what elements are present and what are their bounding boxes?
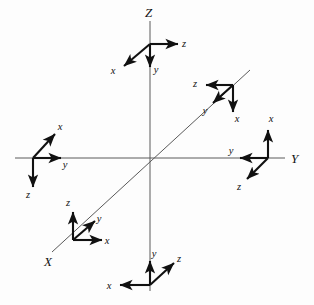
upper-right-frame-on-x-axis-z-label: z (192, 78, 197, 89)
top-frame-on-z-axis-y-label: y (153, 64, 159, 75)
bottom-frame-on-z-axis: xyz (106, 248, 181, 291)
lower-left-frame-on-x-axis: zxy (65, 197, 110, 246)
left-frame-on-y-axis-z-label: z (25, 189, 30, 200)
lower-left-frame-on-x-axis-y-arrow (73, 221, 95, 240)
top-frame-on-z-axis: zxy (110, 38, 186, 76)
right-frame-on-y-axis-x-label: x (268, 113, 274, 124)
bottom-frame-on-z-axis-x-label: x (106, 280, 112, 291)
bottom-frame-on-z-axis-z-arrow (150, 263, 174, 285)
upper-right-frame-on-x-axis-y-arrow (213, 85, 233, 103)
left-frame-on-y-axis-x-arrow (33, 134, 55, 158)
left-frame-on-y-axis-y-label: y (62, 159, 68, 170)
bottom-frame-on-z-axis-z-label: z (176, 253, 181, 264)
lower-left-frame-on-x-axis-z-label: z (65, 197, 70, 208)
right-frame-on-y-axis-z-label: z (236, 181, 241, 192)
top-frame-on-z-axis-z-label: z (181, 38, 186, 49)
global-axis-label-z: Z (145, 5, 153, 20)
left-frame-on-y-axis: xyz (25, 121, 68, 200)
right-frame-on-y-axis-z-arrow (247, 158, 268, 179)
figure-canvas: zxyzxyxyzxyzzxyxyz XYZ (0, 0, 314, 305)
lower-left-frame-on-x-axis-y-label: y (96, 213, 102, 224)
upper-right-frame-on-x-axis-y-label: y (202, 105, 208, 116)
right-frame-on-y-axis: xyz (228, 113, 274, 192)
right-frame-on-y-axis-y-label: y (228, 145, 234, 156)
left-frame-on-y-axis-x-label: x (57, 121, 63, 132)
lower-left-frame-on-x-axis-x-label: x (104, 235, 110, 246)
top-frame-on-z-axis-x-arrow (124, 44, 150, 66)
global-axis-label-y: Y (291, 151, 300, 166)
bottom-frame-on-z-axis-y-label: y (151, 248, 157, 259)
coordinate-frames-diagram: zxyzxyxyzxyzzxyxyz XYZ (0, 0, 314, 305)
global-axis-label-x: X (43, 254, 53, 269)
upper-right-frame-on-x-axis-x-label: x (234, 113, 240, 124)
local-frames-group: zxyzxyxyzxyzzxyxyz (25, 38, 274, 291)
top-frame-on-z-axis-x-label: x (110, 65, 116, 76)
